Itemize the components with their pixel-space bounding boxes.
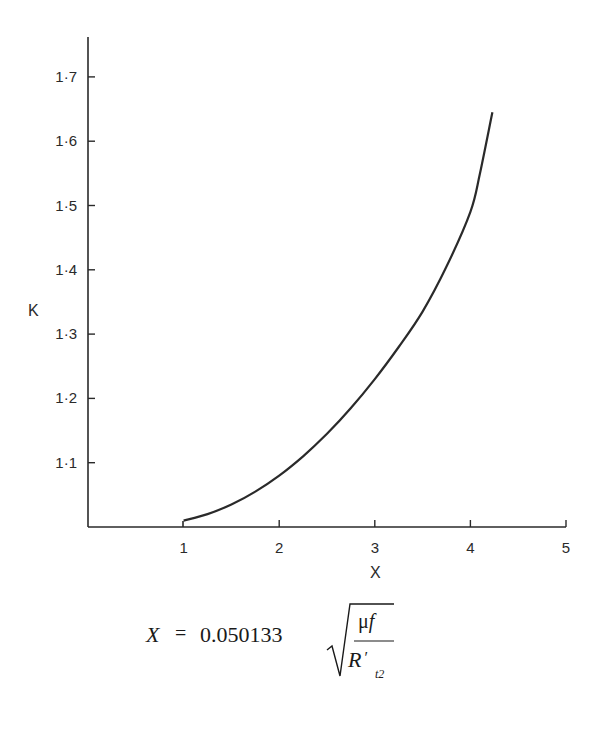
- y-tick-label: 1·2: [55, 389, 77, 406]
- formula-lhs: X: [146, 622, 159, 648]
- formula-denominator: R′t2: [348, 647, 374, 676]
- y-tick-label: 1·5: [55, 197, 77, 214]
- chart: 1·11·21·31·41·51·61·7 12345 K X: [0, 0, 609, 600]
- formula-R: R: [348, 647, 361, 672]
- k-curve: [184, 112, 493, 520]
- x-tick-label: 2: [275, 539, 283, 556]
- y-ticks: 1·11·21·31·41·51·61·7: [55, 68, 95, 471]
- formula-mu: μ: [358, 610, 369, 632]
- y-tick-label: 1·6: [55, 132, 77, 149]
- x-ticks: 12345: [179, 520, 570, 556]
- formula-numerator: μf: [358, 610, 374, 633]
- y-axis-label: K: [28, 302, 39, 319]
- y-tick-label: 1·1: [55, 454, 77, 471]
- formula-f: f: [369, 610, 375, 632]
- formula-prime: ′: [364, 649, 368, 666]
- x-tick-label: 4: [466, 539, 474, 556]
- y-tick-label: 1·3: [55, 325, 77, 342]
- formula: X = 0.050133 μf R′t2: [146, 600, 426, 700]
- y-tick-label: 1·4: [55, 261, 77, 278]
- x-tick-label: 5: [562, 539, 570, 556]
- formula-coefficient: 0.050133: [200, 622, 283, 648]
- x-axis-label: X: [370, 564, 381, 581]
- x-tick-label: 3: [371, 539, 379, 556]
- y-tick-label: 1·7: [55, 68, 77, 85]
- formula-subscript: t2: [375, 667, 384, 681]
- x-tick-label: 1: [179, 539, 187, 556]
- formula-equals: =: [175, 622, 186, 645]
